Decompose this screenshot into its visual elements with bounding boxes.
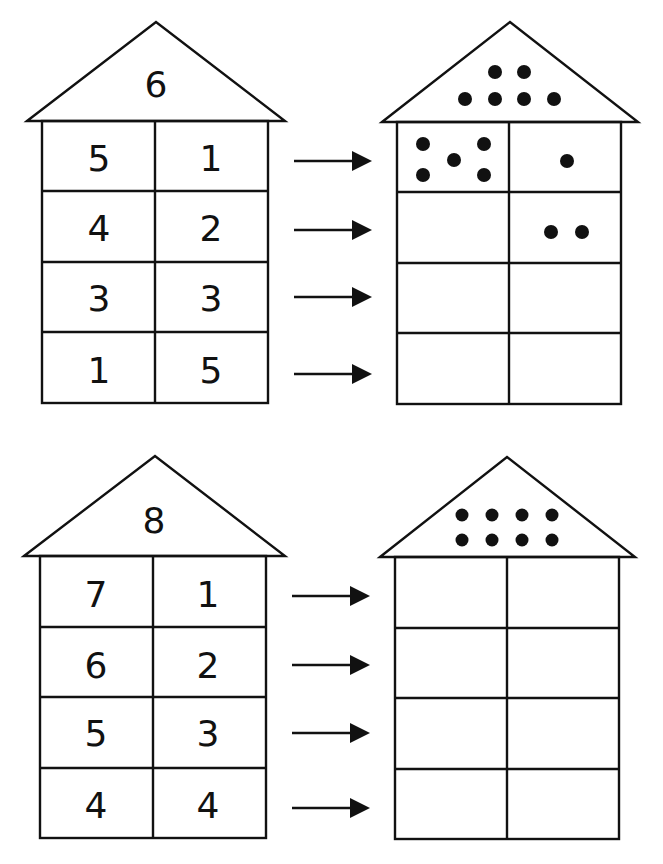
dot-cell-left [416, 137, 491, 182]
dot-cell-right [544, 225, 589, 239]
cell-left: 7 [85, 574, 108, 615]
dot-house-8 [380, 457, 635, 839]
right-arrow-icon [294, 220, 372, 240]
cell-left: 1 [88, 350, 111, 391]
right-arrow-icon [292, 798, 370, 818]
dot-cell-right [560, 154, 574, 168]
cell-left: 5 [88, 138, 111, 179]
cell-right: 3 [200, 278, 223, 319]
right-arrow-icon [294, 151, 372, 171]
number-house-8: 8 7 1 6 2 5 3 4 4 [24, 456, 285, 838]
cell-left: 3 [88, 278, 111, 319]
roof [380, 457, 635, 557]
cell-right: 3 [197, 713, 220, 754]
cell-right: 2 [197, 645, 220, 686]
cell-right: 1 [197, 574, 220, 615]
right-arrow-icon [292, 655, 370, 675]
cell-right: 2 [200, 208, 223, 249]
cell-left: 6 [85, 645, 108, 686]
roof [382, 22, 638, 122]
right-arrow-icon [294, 364, 372, 384]
roof-dots [458, 65, 561, 106]
right-arrow-icon [294, 287, 372, 307]
cell-left: 5 [85, 713, 108, 754]
number-house-6: 6 5 1 4 2 3 3 1 5 [27, 22, 285, 403]
cell-right: 5 [200, 350, 223, 391]
cell-left: 4 [88, 208, 111, 249]
right-arrow-icon [292, 723, 370, 743]
roof-number: 8 [143, 500, 166, 541]
cell-right: 4 [197, 785, 220, 826]
cell-right: 1 [200, 138, 223, 179]
cell-left: 4 [85, 785, 108, 826]
worksheet-canvas: 6 5 1 4 2 3 3 1 5 [0, 0, 663, 864]
dot-house-6 [382, 22, 638, 404]
roof-number: 6 [145, 64, 168, 105]
roof-dots [456, 509, 559, 547]
right-arrow-icon [292, 586, 370, 606]
